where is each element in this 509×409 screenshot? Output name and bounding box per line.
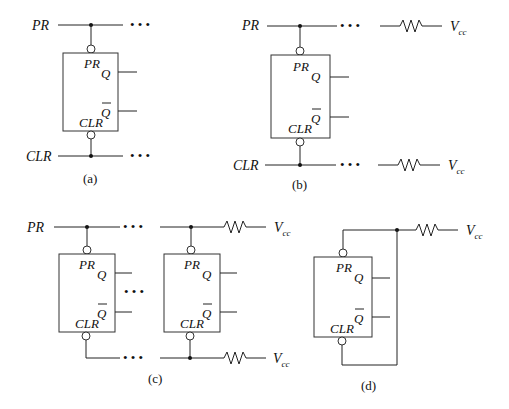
pin-clr-label: CLR: [75, 316, 99, 331]
pr-inversion-bubble: [296, 47, 304, 55]
pin-pr-label: PR: [78, 257, 95, 272]
junction-dot: [298, 163, 302, 167]
pin-qbar-label: Q: [311, 111, 321, 126]
vcc-label: Vcc: [274, 220, 291, 238]
ellipsis: • • •: [123, 350, 143, 365]
pin-q-label: Q: [354, 270, 364, 285]
clr-inversion-bubble: [186, 332, 194, 340]
ellipsis: • • •: [124, 284, 144, 299]
pr-signal-label: PR: [31, 18, 50, 33]
pullup-resistor: [380, 20, 442, 32]
clr-wire: [86, 340, 120, 358]
junction-dot: [188, 356, 192, 360]
vcc-label: Vcc: [273, 351, 290, 369]
pin-q-label: Q: [101, 66, 111, 81]
junction-dot: [89, 154, 93, 158]
pullup-resistor: [416, 224, 458, 236]
caption-d: (d): [361, 378, 376, 393]
clr-signal-label: CLR: [26, 149, 52, 164]
panel-c: PR • • • Vcc PR Q Q CLR • • • PR Q Q CLR: [26, 219, 291, 386]
pullup-resistor: [378, 159, 440, 171]
panel-d: Vcc PR Q Q CLR (d): [314, 223, 483, 393]
vcc-label: Vcc: [448, 158, 465, 176]
pin-clr-label: CLR: [79, 115, 103, 130]
flipflop-preset-clear-diagram: PR • • • PR Q Q CLR CLR • • • (a) PR • •…: [0, 0, 509, 409]
clr-inversion-bubble: [338, 337, 346, 345]
panel-b: PR • • • Vcc PR Q Q CLR CLR • • • Vcc (b…: [233, 18, 467, 192]
clr-signal-label: CLR: [233, 158, 259, 173]
pin-pr-label: PR: [335, 260, 352, 275]
pullup-resistor: [224, 352, 266, 364]
clr-inversion-bubble: [82, 332, 90, 340]
pin-q-label: Q: [311, 69, 321, 84]
ellipsis: • • •: [340, 157, 360, 172]
pr-wire: [343, 230, 416, 249]
vcc-label: Vcc: [450, 19, 467, 37]
pr-inversion-bubble: [339, 249, 347, 257]
ellipsis: • • •: [340, 18, 360, 33]
ellipsis: • • •: [130, 17, 150, 32]
pr-inversion-bubble: [187, 246, 195, 254]
pin-q-label: Q: [97, 267, 107, 282]
ellipsis: • • •: [130, 148, 150, 163]
pin-pr-label: PR: [83, 56, 100, 71]
clr-inversion-bubble: [87, 131, 95, 139]
caption-a: (a): [83, 171, 97, 186]
panel-a: PR • • • PR Q Q CLR CLR • • • (a): [26, 17, 150, 186]
vcc-label: Vcc: [466, 223, 483, 241]
caption-c: (c): [148, 371, 162, 386]
pr-inversion-bubble: [87, 45, 95, 53]
caption-b: (b): [292, 177, 307, 192]
pin-q-label: Q: [202, 267, 212, 282]
pullup-resistor: [224, 221, 266, 233]
pr-signal-label: PR: [241, 18, 260, 33]
pin-qbar-label: Q: [354, 311, 364, 326]
pr-inversion-bubble: [83, 246, 91, 254]
pin-pr-label: PR: [292, 59, 309, 74]
ellipsis: • • •: [123, 219, 143, 234]
clr-inversion-bubble: [296, 138, 304, 146]
pin-clr-label: CLR: [180, 316, 204, 331]
pin-clr-label: CLR: [288, 121, 312, 136]
pin-clr-label: CLR: [330, 321, 354, 336]
pin-pr-label: PR: [183, 257, 200, 272]
pr-signal-label: PR: [26, 220, 45, 235]
